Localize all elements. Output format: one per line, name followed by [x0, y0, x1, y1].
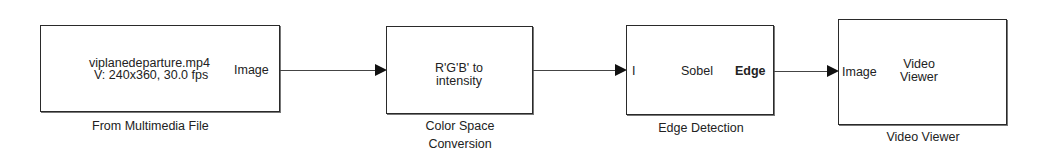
edge-method-sobel: Sobel	[681, 65, 713, 78]
input-port-i[interactable]: I	[632, 65, 635, 78]
viewer-text-line-2: Viewer	[889, 71, 949, 84]
color-space-conversion-caption-line-2: Conversion	[385, 135, 535, 152]
from-multimedia-file-block[interactable]: viplanedeparture.mp4 V: 240x360, 30.0 fp…	[40, 25, 280, 112]
from-multimedia-file-caption: From Multimedia File	[92, 117, 209, 135]
signal-line-1[interactable]	[280, 70, 376, 71]
edge-detection-caption: Edge Detection	[626, 119, 776, 137]
color-space-conversion-caption-line-1: Color Space	[385, 117, 535, 135]
conversion-text-line-2: intensity	[387, 75, 531, 88]
video-viewer-caption: Video Viewer	[838, 128, 1008, 146]
source-video-info: V: 240x360, 30.0 fps	[94, 69, 208, 82]
output-port-image[interactable]: Image	[234, 64, 269, 77]
input-port-image[interactable]: Image	[842, 66, 877, 79]
signal-line-2[interactable]	[533, 70, 616, 71]
output-port-edge[interactable]: Edge	[735, 65, 766, 78]
video-viewer-block[interactable]: Image Video Viewer	[838, 19, 1007, 125]
edge-detection-block[interactable]: I Sobel Edge	[626, 25, 774, 115]
color-space-conversion-block[interactable]: R'G'B' to intensity	[386, 26, 533, 114]
signal-line-3[interactable]	[774, 71, 828, 72]
